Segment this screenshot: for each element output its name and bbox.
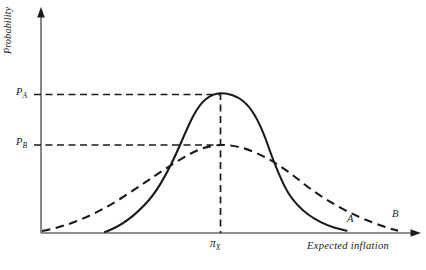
y-tick-label-pa: PA (16, 86, 27, 100)
curve-label-b: B (392, 208, 398, 219)
curve-label-a: A (347, 213, 353, 224)
y-tick-label-pb: PB (16, 136, 27, 150)
x-axis-arrowhead (411, 229, 422, 237)
y-axis-label: Probability (2, 7, 13, 54)
reference-lines-group (34, 93, 221, 233)
y-tick-pa-subscript: A (22, 91, 27, 100)
chart-canvas (0, 0, 426, 270)
x-axis-label: Expected inflation (307, 240, 389, 251)
axes-group (37, 7, 421, 237)
x-tick-pix-subscript: X (216, 243, 221, 252)
probability-distribution-figure: Probability Expected inflation PA PB πX … (0, 0, 426, 270)
y-axis-arrowhead (37, 7, 45, 18)
y-tick-pb-subscript: B (22, 141, 27, 150)
x-tick-label-pix: πX (210, 237, 220, 252)
curve-a-path (105, 93, 347, 232)
